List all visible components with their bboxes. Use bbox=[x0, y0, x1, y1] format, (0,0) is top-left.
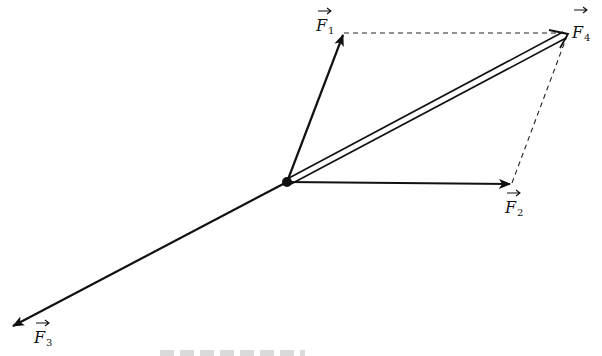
svg-text:4: 4 bbox=[584, 32, 590, 43]
vector-f3 bbox=[13, 182, 287, 326]
label-f1: F 1 bbox=[315, 8, 334, 36]
svg-text:1: 1 bbox=[328, 25, 334, 36]
vector-arrow-icon bbox=[507, 190, 520, 196]
dashed-line-f2-f4 bbox=[512, 36, 567, 183]
vector-arrow-icon bbox=[36, 320, 49, 326]
vector-f2 bbox=[287, 182, 510, 184]
svg-text:F: F bbox=[33, 328, 46, 347]
force-diagram: F 1 F 2 F 3 F 4 bbox=[0, 0, 602, 356]
vector-f4 bbox=[289, 30, 568, 184]
svg-text:F: F bbox=[315, 16, 328, 35]
svg-text:F: F bbox=[571, 23, 584, 42]
vector-arrow-icon bbox=[574, 7, 587, 13]
origin-point bbox=[282, 177, 292, 187]
label-f3: F 3 bbox=[33, 320, 52, 348]
svg-text:3: 3 bbox=[46, 337, 52, 348]
label-f4: F 4 bbox=[571, 7, 590, 43]
svg-text:F: F bbox=[504, 198, 517, 217]
vector-arrow-icon bbox=[318, 8, 331, 14]
caption-fragment bbox=[160, 350, 305, 356]
label-f2: F 2 bbox=[504, 190, 523, 218]
svg-text:2: 2 bbox=[517, 207, 523, 218]
